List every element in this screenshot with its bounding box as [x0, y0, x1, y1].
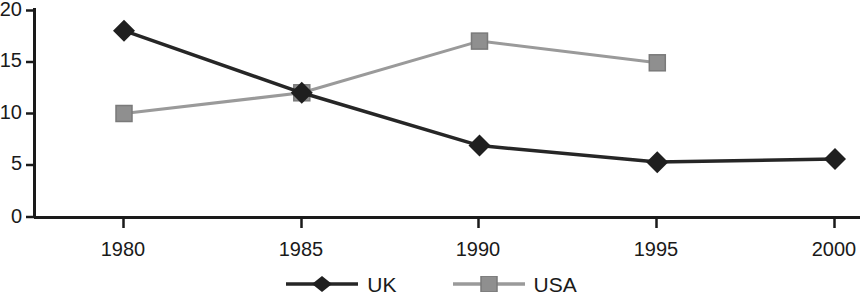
legend-item-uk[interactable]: UK: [286, 274, 396, 295]
series-usa-line: [124, 41, 657, 113]
y-axis-ticks: [26, 11, 34, 218]
series-uk-marker-2000: [824, 148, 846, 170]
legend-label-usa: USA: [534, 274, 577, 295]
diamond-icon: [312, 276, 332, 292]
y-axis-tick-label-5: 5: [0, 152, 22, 175]
series-uk-marker-1995: [646, 151, 668, 173]
y-axis-tick-label-20: 20: [0, 0, 22, 21]
series-usa-marker-1990: [472, 33, 488, 49]
square-icon: [481, 276, 497, 292]
chart-legend: UK USA: [0, 266, 863, 302]
series-usa-marker-1980: [116, 106, 132, 122]
x-axis-tick-label-2000: 2000: [774, 238, 863, 261]
y-axis-tick-label-15: 15: [0, 49, 22, 72]
x-axis-tick-label-1995: 1995: [596, 238, 716, 261]
x-axis-tick-label-1980: 1980: [63, 238, 183, 261]
y-axis-tick-label-10: 10: [0, 101, 22, 124]
legend-swatch-usa: [453, 276, 525, 292]
legend-label-uk: UK: [367, 274, 396, 295]
series-usa: [116, 33, 665, 121]
x-axis-tick-label-1985: 1985: [241, 238, 361, 261]
legend-item-usa[interactable]: USA: [453, 274, 577, 295]
x-axis-ticks: [124, 218, 835, 228]
series-uk-marker-1980: [113, 20, 135, 42]
series-usa-marker-1995: [649, 55, 665, 71]
line-chart: 20 15 10 5 0 1980 1985 1990 1995 2000 UK…: [0, 0, 863, 302]
y-axis-tick-label-0: 0: [0, 205, 22, 228]
series-uk-marker-1990: [469, 135, 491, 157]
axis-lines: [34, 8, 860, 218]
x-axis-tick-label-1990: 1990: [418, 238, 538, 261]
legend-swatch-uk: [286, 276, 358, 292]
